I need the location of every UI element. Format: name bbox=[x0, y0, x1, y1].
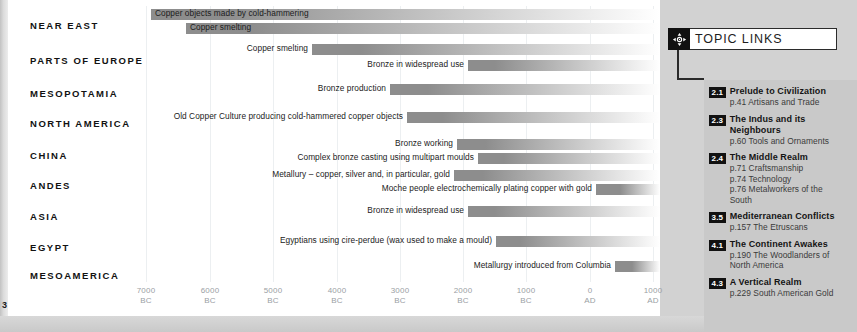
timeline-bar: Copper objects made by cold-hammering bbox=[151, 9, 660, 20]
topic-link-heading: The Indus and its Neighbours bbox=[730, 114, 851, 136]
topic-link-heading: The Continent Awakes bbox=[730, 239, 851, 250]
axis-tick-2000-BC: 2000BC bbox=[443, 286, 483, 305]
topic-links-title: TOPIC LINKS bbox=[695, 32, 782, 46]
bar-caption: Copper objects made by cold-hammering bbox=[155, 8, 309, 18]
axis-tick-6000-BC: 6000BC bbox=[190, 286, 230, 305]
bar-fill bbox=[407, 112, 660, 123]
timeline-bar: Copper smelting bbox=[312, 44, 660, 55]
topic-link-heading: The Middle Realm bbox=[730, 152, 851, 163]
topic-link-number: 2.3 bbox=[709, 115, 726, 126]
timeline-bar: Metallury – copper, silver and, in parti… bbox=[454, 170, 660, 181]
topic-link-subentries: p.41 Artisans and Trade bbox=[730, 97, 851, 108]
axis-tick-4000-BC: 4000BC bbox=[317, 286, 357, 305]
gridline-6000-BC bbox=[210, 6, 211, 282]
axis-tick-1000-BC: 1000BC bbox=[506, 286, 546, 305]
row-label-china: CHINA bbox=[30, 150, 68, 161]
timeline-bar: Metallurgy introduced from Columbia bbox=[615, 261, 660, 272]
row-label-near-east: NEAR EAST bbox=[30, 20, 99, 31]
topic-link-text: The Indus and its Neighboursp.60 Tools a… bbox=[730, 114, 851, 147]
row-label-asia: ASIA bbox=[30, 211, 59, 222]
topic-link-number: 4.1 bbox=[709, 240, 726, 251]
topic-link-number: 4.3 bbox=[709, 278, 726, 289]
chart-x-axis: 7000BC6000BC5000BC4000BC3000BC2000BC1000… bbox=[8, 286, 660, 312]
topic-link-subentries: p.71 Craftsmanshipp.74 Technologyp.76 Me… bbox=[730, 163, 851, 205]
bar-caption: Metallury – copper, silver and, in parti… bbox=[272, 169, 450, 179]
row-label-egypt: EGYPT bbox=[30, 242, 70, 253]
timeline-bar: Bronze in widespread use bbox=[468, 206, 660, 217]
bar-caption: Bronze production bbox=[318, 83, 386, 93]
bar-caption: Old Copper Culture producing cold-hammer… bbox=[174, 111, 403, 121]
topic-link-subentry: p.190 The Woodlanders of bbox=[730, 250, 851, 261]
bar-fill bbox=[186, 23, 660, 34]
row-label-mesopotamia: MESOPOTAMIA bbox=[30, 88, 118, 99]
topic-link-item[interactable]: 2.3The Indus and its Neighboursp.60 Tool… bbox=[709, 114, 851, 147]
row-label-north-america: NORTH AMERICA bbox=[30, 118, 131, 129]
topic-links-panel: TOPIC LINKS 2.1Prelude to Civilizationp.… bbox=[668, 28, 857, 332]
topic-links-connector-vertical bbox=[677, 50, 679, 79]
topic-link-item[interactable]: 4.3A Vertical Realmp.229 South American … bbox=[709, 277, 851, 299]
timeline-bar: Complex bronze casting using multipart m… bbox=[478, 153, 660, 164]
topic-link-heading: A Vertical Realm bbox=[730, 277, 851, 288]
bar-fill bbox=[596, 184, 660, 195]
row-label-mesoamerica: MESOAMERICA bbox=[30, 270, 119, 281]
timeline-bar: Moche people electrochemically plating c… bbox=[596, 184, 660, 195]
compass-four-way-icon bbox=[668, 28, 690, 50]
topic-link-subentry: p.41 Artisans and Trade bbox=[730, 97, 851, 108]
book-spine bbox=[0, 0, 8, 332]
topic-link-subentry: p.229 South American Gold bbox=[730, 288, 851, 299]
timeline-bar: Bronze working bbox=[457, 139, 660, 150]
timeline-bar: Bronze in widespread use bbox=[468, 60, 660, 71]
topic-links-list: 2.1Prelude to Civilizationp.41 Artisans … bbox=[704, 80, 857, 332]
bar-fill bbox=[615, 261, 660, 272]
bar-caption: Complex bronze casting using multipart m… bbox=[297, 152, 474, 162]
topic-link-item[interactable]: 2.4The Middle Realmp.71 Craftsmanshipp.7… bbox=[709, 152, 851, 205]
topic-link-subentry: p.71 Craftsmanship bbox=[730, 163, 851, 174]
topic-links-header[interactable]: TOPIC LINKS bbox=[668, 28, 837, 50]
topic-link-subentry: p.76 Metalworkers of the bbox=[730, 184, 851, 195]
metallurgy-timeline-chart: NEAR EASTCopper objects made by cold-ham… bbox=[8, 0, 660, 316]
topic-link-heading: Mediterranean Conflicts bbox=[730, 211, 851, 222]
bar-caption: Copper smelting bbox=[190, 22, 251, 32]
topic-link-item[interactable]: 3.5Mediterranean Conflictsp.157 The Etru… bbox=[709, 211, 851, 233]
row-label-parts-of-europe: PARTS OF EUROPE bbox=[30, 55, 143, 66]
topic-link-subentries: p.60 Tools and Ornaments bbox=[730, 136, 851, 147]
axis-tick-5000-BC: 5000BC bbox=[253, 286, 293, 305]
topic-link-item[interactable]: 4.1The Continent Awakesp.190 The Woodlan… bbox=[709, 239, 851, 271]
bar-fill bbox=[454, 170, 660, 181]
topic-link-text: The Middle Realmp.71 Craftsmanshipp.74 T… bbox=[730, 152, 851, 205]
topic-link-text: Mediterranean Conflictsp.157 The Etrusca… bbox=[730, 211, 851, 233]
bar-caption: Bronze working bbox=[395, 138, 453, 148]
topic-link-subentries: p.229 South American Gold bbox=[730, 288, 851, 299]
bar-fill bbox=[390, 84, 660, 95]
topic-link-subentry: p.74 Technology bbox=[730, 174, 851, 185]
bar-caption: Bronze in widespread use bbox=[367, 205, 464, 215]
timeline-bar: Old Copper Culture producing cold-hammer… bbox=[407, 112, 660, 123]
topic-link-number: 2.4 bbox=[709, 153, 726, 164]
bar-fill bbox=[496, 236, 660, 247]
bar-caption: Moche people electrochemically plating c… bbox=[382, 183, 592, 193]
timeline-bar: Copper smelting bbox=[186, 23, 660, 34]
topic-link-heading: Prelude to Civilization bbox=[730, 86, 851, 97]
topic-link-subentry: p.60 Tools and Ornaments bbox=[730, 136, 851, 147]
topic-link-item[interactable]: 2.1Prelude to Civilizationp.41 Artisans … bbox=[709, 86, 851, 108]
page-number: 3 bbox=[2, 300, 8, 310]
topic-link-subentries: p.190 The Woodlanders ofNorth America bbox=[730, 250, 851, 271]
topic-link-subentries: p.157 The Etruscans bbox=[730, 222, 851, 233]
topic-link-text: A Vertical Realmp.229 South American Gol… bbox=[730, 277, 851, 299]
timeline-bar: Bronze production bbox=[390, 84, 660, 95]
bar-caption: Egyptians using cire-perdue (wax used to… bbox=[280, 235, 492, 245]
topic-links-connector-horizontal bbox=[677, 78, 704, 80]
axis-tick-0-AD: 0AD bbox=[570, 286, 610, 305]
topic-link-number: 2.1 bbox=[709, 87, 726, 98]
topic-link-subentry: p.157 The Etruscans bbox=[730, 222, 851, 233]
topic-link-text: Prelude to Civilizationp.41 Artisans and… bbox=[730, 86, 851, 108]
bar-caption: Copper smelting bbox=[247, 43, 308, 53]
topic-link-subentry: North America bbox=[730, 260, 851, 271]
bar-fill bbox=[457, 139, 660, 150]
bar-fill bbox=[468, 206, 660, 217]
bar-caption: Bronze in widespread use bbox=[367, 59, 464, 69]
axis-tick-1000-AD: 1000AD bbox=[633, 286, 673, 305]
gridline-7000-BC bbox=[146, 6, 147, 282]
topic-link-text: The Continent Awakesp.190 The Woodlander… bbox=[730, 239, 851, 271]
page-background: NEAR EASTCopper objects made by cold-ham… bbox=[0, 0, 857, 332]
